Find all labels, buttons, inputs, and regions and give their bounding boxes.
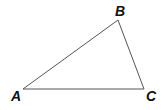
triangle-diagram: A B C: [0, 0, 164, 110]
vertex-label-a: A: [10, 88, 21, 104]
vertex-label-c: C: [146, 88, 157, 104]
vertex-label-b: B: [115, 3, 125, 19]
edge-bc: [118, 20, 144, 89]
edge-ab: [23, 20, 118, 89]
